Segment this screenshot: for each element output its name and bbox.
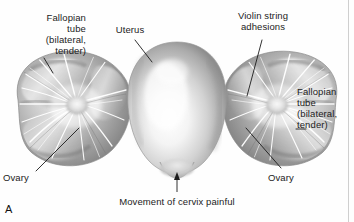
uterus-body xyxy=(128,42,227,178)
left-adnexal-mass xyxy=(17,51,131,166)
label-violin-string-adhesions: Violin string adhesions xyxy=(215,10,311,32)
right-ovary xyxy=(266,96,288,115)
left-ovary xyxy=(66,96,88,115)
label-cervix-movement-painful: Movement of cervix painful xyxy=(84,196,270,207)
figure-panel-letter: A xyxy=(5,203,12,215)
label-ovary-left: Ovary xyxy=(3,172,51,183)
label-fallopian-tube-left: Fallopian tube (bilateral, tender) xyxy=(2,12,86,56)
page-edge-line xyxy=(348,0,349,222)
label-uterus: Uterus xyxy=(98,24,162,35)
label-fallopian-tube-right: Fallopian tube (bilateral, tender) xyxy=(297,86,353,130)
label-ovary-right: Ovary xyxy=(268,172,316,183)
